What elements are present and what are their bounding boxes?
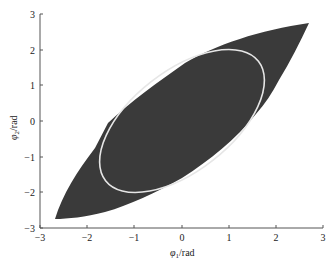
- svg-text:1: 1: [30, 80, 35, 91]
- y-tick-labels: 3 2 1 0 −1 −2 −3: [24, 9, 35, 234]
- y-axis-label: φ2/rad: [8, 115, 21, 140]
- x-tick-labels: −3 −2 −1 0 1 2 3: [35, 232, 326, 243]
- svg-text:−1: −1: [24, 152, 35, 163]
- x-axis-label: φ1/rad: [170, 247, 195, 260]
- filled-region: [55, 23, 309, 219]
- svg-text:3: 3: [30, 9, 35, 20]
- svg-text:0: 0: [30, 116, 35, 127]
- svg-text:−3: −3: [35, 232, 46, 243]
- chart: −3 −2 −1 0 1 2 3 3 2 1 0 −1 −2 −3 φ1/rad…: [0, 0, 332, 267]
- svg-text:2: 2: [274, 232, 279, 243]
- svg-text:3: 3: [321, 232, 326, 243]
- svg-text:−3: −3: [24, 223, 35, 234]
- svg-text:−2: −2: [82, 232, 93, 243]
- svg-text:−1: −1: [129, 232, 140, 243]
- svg-text:1: 1: [227, 232, 232, 243]
- svg-text:−2: −2: [24, 187, 35, 198]
- svg-text:2: 2: [30, 45, 35, 56]
- svg-text:0: 0: [180, 232, 185, 243]
